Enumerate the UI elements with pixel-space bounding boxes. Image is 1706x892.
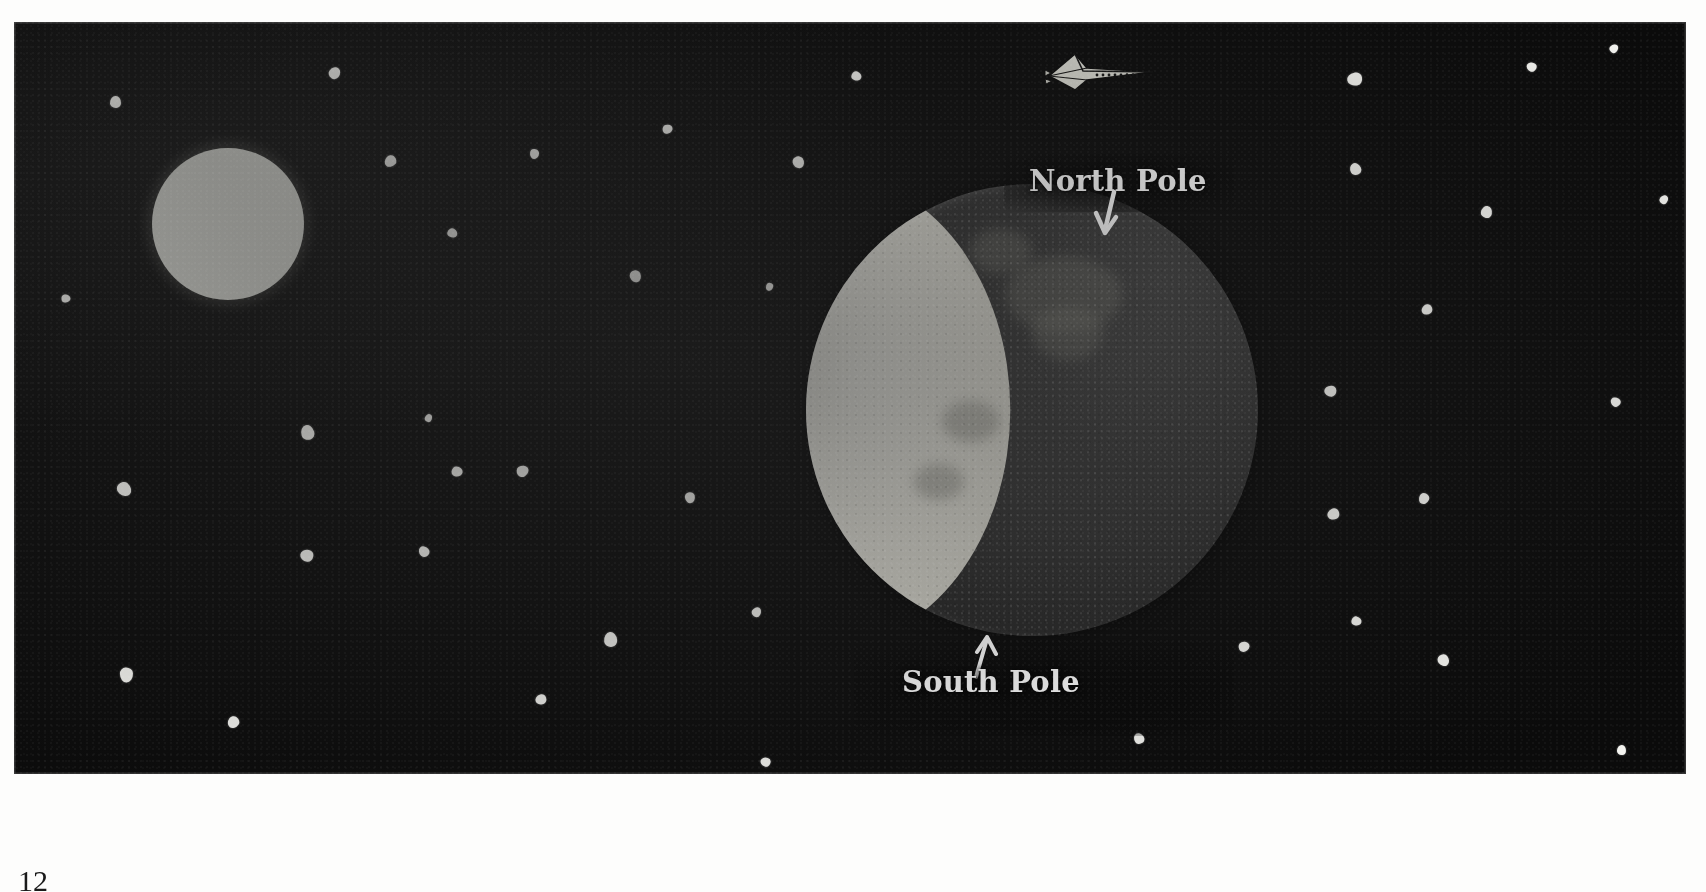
space-scene-panel: North Pole South Pole — [14, 22, 1686, 774]
arrow-down-icon — [1092, 190, 1132, 236]
star — [1237, 640, 1251, 654]
star — [765, 282, 774, 291]
star — [1617, 745, 1627, 756]
star — [1480, 205, 1493, 219]
star — [603, 631, 618, 647]
sun — [152, 148, 304, 300]
star — [424, 413, 433, 423]
space-shuttle-icon — [1045, 54, 1153, 90]
star — [1417, 491, 1431, 505]
star — [1346, 72, 1363, 88]
star — [110, 96, 121, 108]
star — [791, 154, 807, 170]
star — [299, 423, 316, 441]
moon — [806, 184, 1258, 636]
star — [61, 294, 71, 303]
star — [750, 605, 763, 618]
star — [225, 714, 241, 730]
moon-mare — [942, 401, 1001, 442]
star — [1608, 42, 1620, 54]
star — [759, 756, 771, 768]
star — [1609, 395, 1622, 408]
page-number: 12 — [18, 864, 48, 892]
star — [850, 70, 863, 82]
star — [446, 227, 459, 240]
star — [115, 480, 135, 499]
star — [514, 463, 530, 479]
star — [1348, 161, 1363, 177]
spacecraft — [1035, 46, 1155, 94]
star — [326, 65, 342, 81]
south-pole-label: South Pole — [902, 665, 1080, 699]
star — [661, 123, 673, 134]
star — [1420, 302, 1435, 317]
star — [684, 491, 696, 504]
moon-mare — [1032, 306, 1104, 360]
moon-lit-crescent — [806, 184, 1258, 636]
star — [628, 268, 643, 284]
star — [417, 544, 432, 559]
star — [1324, 386, 1337, 397]
star — [299, 549, 314, 563]
star — [451, 466, 463, 477]
star — [1658, 193, 1670, 205]
star — [120, 668, 133, 683]
moon-mare — [969, 229, 1032, 274]
star — [382, 153, 398, 170]
figure-page: North Pole South Pole 12 — [0, 0, 1706, 892]
star — [534, 693, 548, 706]
star — [530, 149, 540, 160]
star — [1435, 652, 1451, 668]
star — [1132, 731, 1147, 746]
star — [1351, 615, 1363, 626]
star — [1325, 506, 1341, 521]
star — [1525, 61, 1538, 74]
